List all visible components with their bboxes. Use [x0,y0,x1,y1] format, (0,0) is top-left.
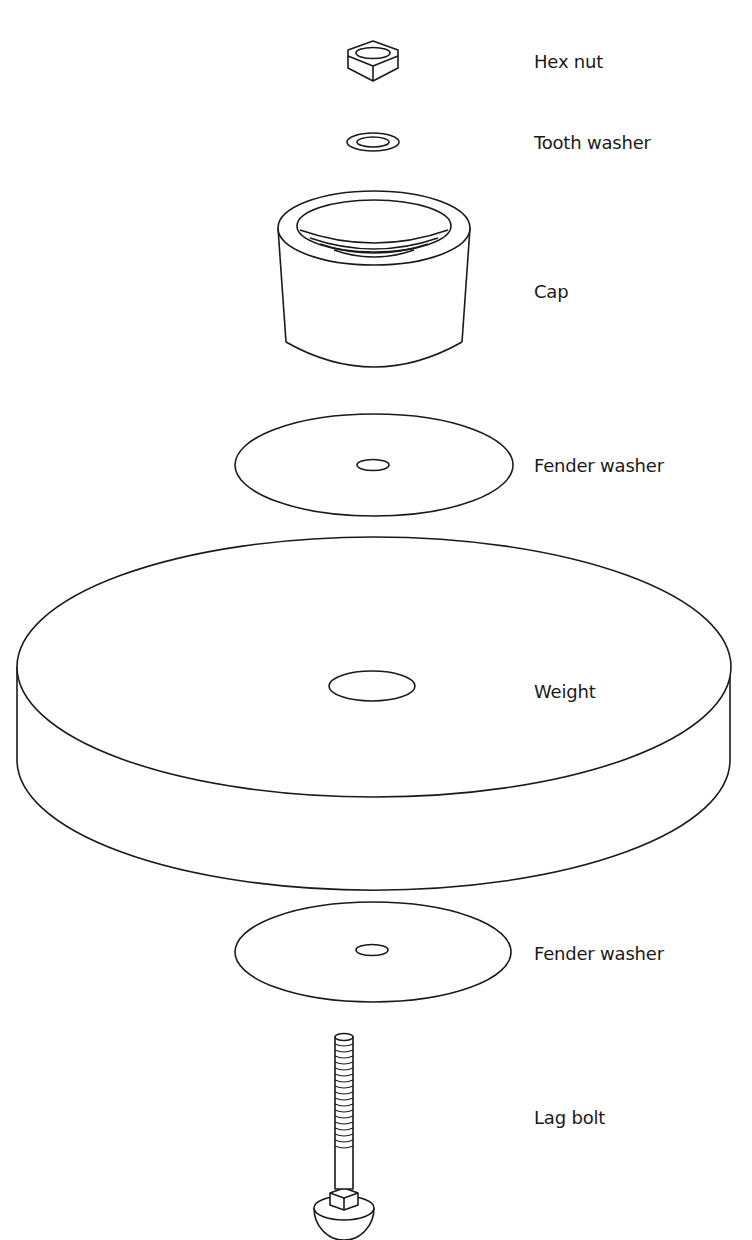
tooth-washer-label: Tooth washer [534,132,651,153]
cap-label: Cap [534,281,568,302]
exploded-diagram [0,0,752,1240]
hex-nut-label: Hex nut [534,51,603,72]
fender-washer-bottom-illustration [235,902,511,1002]
cap-illustration [278,191,470,367]
lag-bolt-label: Lag bolt [534,1107,605,1128]
lag-bolt-illustration [314,1034,374,1240]
fender-washer-bottom-label: Fender washer [534,943,664,964]
hex-nut-illustration [348,41,398,81]
weight-label: Weight [534,681,596,702]
fender-washer-top-label: Fender washer [534,455,664,476]
tooth-washer-illustration [347,133,399,151]
weight-illustration [17,537,731,890]
fender-washer-top-illustration [235,414,513,516]
